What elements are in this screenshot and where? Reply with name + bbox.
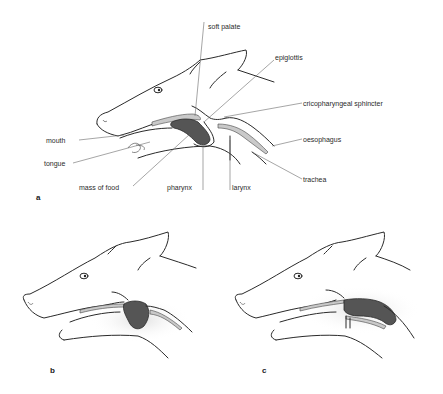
leader-trachea [252,152,302,179]
label-pharynx: pharynx [167,184,192,192]
label-cricopharyngeal-sphincter: cricopharyngeal sphincter [303,100,383,108]
label-mouth: mouth [46,137,66,144]
panel-label-a: a [36,193,41,202]
panel-a: soft palate epiglottis cricopharyngeal s… [36,22,383,202]
panel-b: b [23,232,196,375]
leader-mass-of-food [133,134,190,186]
label-trachea: trachea [303,176,326,183]
panel-c: c [235,232,420,375]
panel-label-c: c [262,366,267,375]
leader-cricopharyngeal [224,103,302,117]
label-oesophagus: oesophagus [303,136,342,144]
leader-mouth [79,135,124,140]
leader-soft-palate [195,22,204,116]
dog-head-a [97,50,274,164]
label-epiglottis: epiglottis [275,54,303,62]
leader-oesophagus [272,139,302,146]
dog-head-c [235,232,420,358]
label-mass-of-food: mass of food [79,184,119,191]
leader-tongue [73,142,150,163]
label-larynx: larynx [232,184,251,192]
label-tongue: tongue [44,160,66,168]
swallowing-diagram: soft palate epiglottis cricopharyngeal s… [0,0,443,394]
panel-label-b: b [50,366,55,375]
label-soft-palate: soft palate [208,23,240,31]
dog-head-b [23,232,196,358]
